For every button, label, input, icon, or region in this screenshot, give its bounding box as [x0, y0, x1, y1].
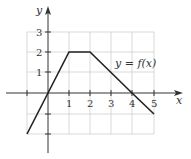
ticks	[27, 32, 154, 134]
y-tick-2: 2	[36, 47, 42, 58]
x-tick-2: 2	[87, 98, 93, 109]
function-graph: 1 2 3 4 5 3 2 1 x y y = f(x)	[0, 0, 191, 159]
grid	[27, 32, 154, 134]
x-tick-1: 1	[66, 98, 72, 109]
x-tick-3: 3	[108, 98, 114, 109]
y-tick-1: 1	[36, 67, 42, 78]
x-axis-label: x	[176, 94, 183, 107]
x-tick-4: 4	[129, 98, 135, 109]
x-tick-5: 5	[151, 98, 157, 109]
curve-label: y = f(x)	[114, 57, 156, 70]
y-tick-3: 3	[36, 27, 42, 38]
y-axis-label: y	[35, 4, 43, 17]
